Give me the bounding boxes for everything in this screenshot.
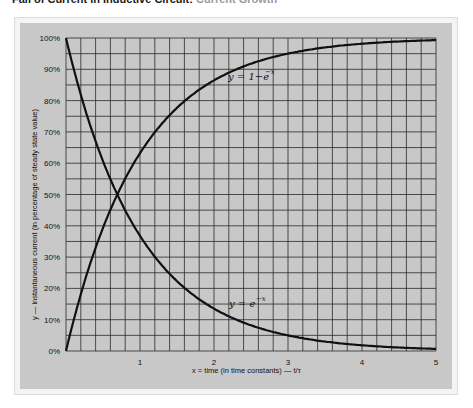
y-tick-label: 60%: [44, 159, 60, 168]
label-rise-curve: y = 1−e −x: [227, 68, 275, 82]
y-tick-label: 80%: [44, 97, 60, 106]
x-tick-label: 5: [434, 358, 439, 367]
y-tick-label: 100%: [40, 34, 60, 43]
decay-curve-exp: −x: [256, 295, 266, 303]
x-tick-label: 4: [360, 358, 365, 367]
y-tick-label: 70%: [44, 128, 60, 137]
y-tick-label: 0%: [48, 347, 60, 356]
chart-plot: 0%10%20%30%40%50%60%70%80%90%100% 12345 …: [0, 0, 473, 408]
y-tick-label: 20%: [44, 284, 60, 293]
x-tick-label: 1: [138, 358, 143, 367]
y-tick-label: 50%: [44, 191, 60, 200]
decay-curve-label: y = e: [228, 298, 255, 309]
y-tick-label: 40%: [44, 222, 60, 231]
y-axis-label: y — instantaneous current (in percentage…: [30, 109, 39, 320]
y-tick-label: 90%: [44, 65, 60, 74]
y-tick-label: 10%: [44, 316, 60, 325]
x-axis-label: x = time (in time constants) — t/τ: [192, 366, 301, 375]
y-axis-ticks: 0%10%20%30%40%50%60%70%80%90%100%: [40, 34, 60, 356]
y-tick-label: 30%: [44, 253, 60, 262]
rise-curve-label: y = 1−e: [227, 71, 269, 82]
rise-curve-exp: −x: [265, 68, 275, 76]
label-decay-curve: y = e −x: [228, 295, 266, 309]
